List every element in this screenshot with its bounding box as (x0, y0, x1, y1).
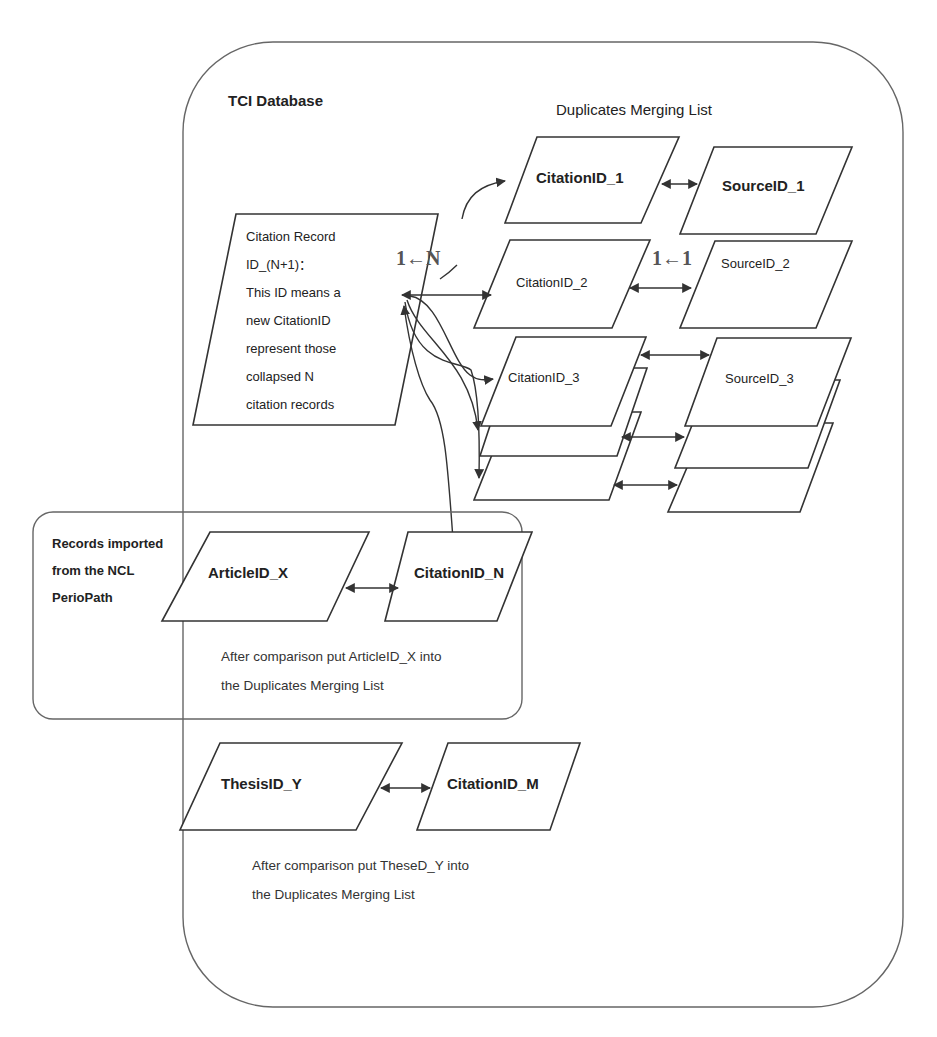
one-to-n-label: 1←N (396, 247, 441, 269)
ncl-title-line-3: PerioPath (52, 590, 113, 605)
ncl-title-line-2: from the NCL (52, 563, 134, 578)
diagram-canvas: TCI Database Duplicates Merging List Cit… (0, 0, 937, 1037)
tick-one-to-n (440, 265, 457, 279)
curve-to-citation3 (410, 296, 493, 380)
citation-record-line-4: new CitationID (246, 313, 331, 328)
citation-record-line-7: citation records (246, 397, 335, 412)
source-node-2-label: SourceID_2 (721, 256, 790, 271)
thesis-note-line-2: the Duplicates Merging List (252, 887, 415, 902)
source-node-3-label: SourceID_3 (725, 371, 794, 386)
citation-record-line-2: ID_(N+1)： (246, 257, 312, 272)
source-node-1-label: SourceID_1 (722, 177, 805, 194)
ncl-note-line-1: After comparison put ArticleID_X into (221, 649, 442, 664)
citation-node-3-label: CitationID_3 (508, 370, 580, 385)
citation-record-line-3: This ID means a (246, 285, 341, 300)
tci-database-title: TCI Database (228, 92, 323, 109)
ncl-title-line-1: Records imported (52, 536, 163, 551)
one-to-one-label: 1←1 (652, 247, 692, 269)
ncl-note-line-2: the Duplicates Merging List (221, 678, 384, 693)
duplicates-list-title: Duplicates Merging List (556, 101, 713, 118)
citation-m-node-label: CitationID_M (447, 775, 539, 792)
citation-node-2-label: CitationID_2 (516, 275, 588, 290)
citation-record-line-5: represent those (246, 341, 336, 356)
citation-node-1-label: CitationID_1 (536, 169, 624, 186)
article-node-label: ArticleID_X (208, 564, 288, 581)
source-node-2 (680, 241, 852, 328)
citation-record-line-1: Citation Record (246, 229, 336, 244)
citation-record-line-6: collapsed N (246, 369, 314, 384)
thesis-node-label: ThesisID_Y (221, 775, 302, 792)
thesis-note-line-1: After comparison put TheseD_Y into (252, 858, 469, 873)
citation-n-node-label: CitationID_N (414, 564, 504, 581)
ncl-title: Records imported from the NCL PerioPath (52, 536, 163, 605)
curve-to-citation1 (462, 181, 505, 219)
